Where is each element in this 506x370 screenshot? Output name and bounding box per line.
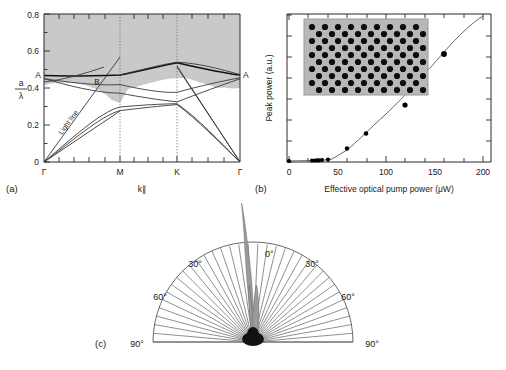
- panel-b-xtick-0: 0: [287, 167, 292, 177]
- figure-root: 0 0.2 0.4 0.6 0.8 A A B Light line a λ Γ…: [0, 0, 506, 370]
- mode-b-label: B: [94, 77, 99, 86]
- polar-label-right-90: 90°: [365, 339, 379, 349]
- polar-label-0: 0°: [265, 249, 274, 259]
- panel-b-xlabel: Effective optical pump power (μW): [324, 184, 454, 194]
- panel-a-ytick-04: 0.4: [27, 83, 39, 93]
- panel-b-li-curve: 0 50 100 150 200 Effective optical pump …: [253, 0, 506, 198]
- panel-a-xtick-gamma1: Γ: [42, 167, 47, 177]
- panel-b-label: (b): [255, 183, 267, 194]
- panel-b-xtick-200: 200: [476, 167, 490, 177]
- panel-a-ylabel: a λ: [15, 78, 27, 101]
- panel-a-ylabel-den: λ: [19, 91, 24, 101]
- panel-a-ytick-02: 0.2: [27, 120, 39, 130]
- panel-a-ytick-08: 0.8: [27, 10, 39, 20]
- panel-a-xtick-K: K: [174, 167, 180, 177]
- panel-a-label: (a): [6, 183, 18, 194]
- panel-a-band-diagram: 0 0.2 0.4 0.6 0.8 A A B Light line a λ Γ…: [0, 0, 253, 198]
- panel-b-ylabel: Peak power (a.u.): [264, 54, 274, 121]
- mode-a-right-label: A: [243, 70, 249, 80]
- mode-a-left-label: A: [35, 70, 41, 80]
- panel-c-farfield-polar: 0° 30° 60° 90° 30° 60° 90° (c): [0, 195, 506, 370]
- polar-label-left-90: 90°: [130, 339, 144, 349]
- panel-a-xtick-M: M: [116, 167, 123, 177]
- panel-a-ylabel-num: a: [19, 78, 24, 88]
- light-line-label: Light line: [57, 109, 80, 136]
- panel-b-xtick-150: 150: [428, 167, 442, 177]
- panel-b-xtick-100: 100: [379, 167, 393, 177]
- panel-c-label: (c): [95, 338, 106, 349]
- panel-a-ytick-06: 0.6: [27, 46, 39, 56]
- panel-a-xtick-gamma2: Γ: [238, 167, 243, 177]
- polar-label-right-60: 60°: [341, 292, 355, 302]
- panel-a-xlabel: k∥: [138, 184, 147, 194]
- polar-label-left-30: 30°: [188, 259, 202, 269]
- polar-label-left-60: 60°: [153, 292, 167, 302]
- panel-a-ytick-0: 0: [34, 157, 39, 167]
- panel-b-xtick-50: 50: [333, 167, 343, 177]
- sem-photonic-crystal-inset: [304, 19, 428, 95]
- polar-label-right-30: 30°: [305, 259, 319, 269]
